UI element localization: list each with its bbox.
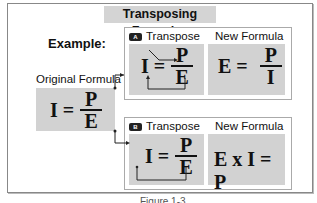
connector-arrows [0, 0, 317, 203]
figure-caption: Figure 1-3 [140, 196, 186, 203]
